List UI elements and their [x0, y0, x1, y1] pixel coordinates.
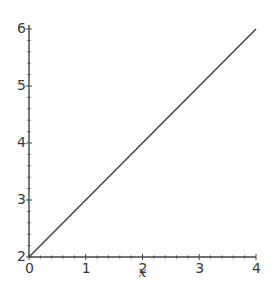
x-tick-label-0: 0 — [25, 261, 34, 275]
x-tick-label-4: 4 — [252, 261, 261, 275]
x-tick-label-3: 3 — [195, 261, 204, 275]
y-tick-label-4: 4 — [17, 135, 26, 149]
series-line-0 — [29, 29, 256, 257]
x-axis-title: x — [139, 265, 147, 279]
series-layer — [29, 29, 256, 257]
y-tick-label-2: 2 — [17, 249, 26, 263]
y-tick-label-6: 6 — [17, 21, 26, 35]
y-tick-label-3: 3 — [17, 192, 26, 206]
x-tick-label-1: 1 — [82, 261, 91, 275]
y-tick-label-5: 5 — [17, 78, 26, 92]
plot-area — [0, 0, 274, 295]
